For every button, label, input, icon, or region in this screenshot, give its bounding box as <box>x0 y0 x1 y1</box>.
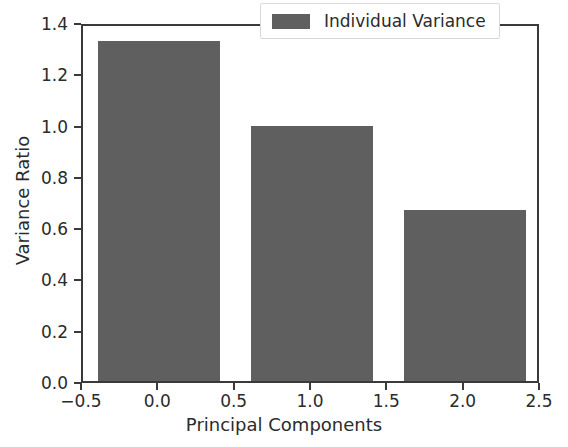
x-axis-tick <box>80 383 82 390</box>
x-axis-tick <box>156 383 158 390</box>
y-axis-tick <box>74 74 81 76</box>
x-axis-tick-label: 1.5 <box>373 393 400 410</box>
x-axis-tick-label: 1.0 <box>296 393 323 410</box>
plot-area <box>81 24 539 383</box>
y-axis-tick-label: 0.6 <box>0 221 68 238</box>
x-axis-tick-label: −0.5 <box>60 393 101 410</box>
y-axis-tick-label: 1.4 <box>0 16 68 33</box>
x-axis-tick-label: 2.5 <box>525 393 552 410</box>
y-axis-tick <box>74 228 81 230</box>
y-axis-tick-label: 0.2 <box>0 324 68 341</box>
legend-label-individual-variance: Individual Variance <box>324 11 486 31</box>
y-axis-tick-label: 1.2 <box>0 67 68 84</box>
y-axis-tick-label: 0.0 <box>0 375 68 392</box>
y-axis-tick <box>74 177 81 179</box>
bar <box>98 41 220 381</box>
x-axis-tick <box>462 383 464 390</box>
bar <box>404 210 526 381</box>
x-axis-tick-label: 2.0 <box>449 393 476 410</box>
x-axis-tick <box>233 383 235 390</box>
y-axis-tick-label: 1.0 <box>0 119 68 136</box>
bar <box>251 126 373 381</box>
variance-ratio-bar-chart: 0.00.20.40.60.81.01.21.4 −0.50.00.51.01.… <box>0 0 568 447</box>
y-axis-tick <box>74 279 81 281</box>
y-axis-label: Variance Ratio <box>12 121 33 281</box>
y-axis-tick <box>74 331 81 333</box>
bars-layer <box>83 26 537 381</box>
y-axis-tick <box>74 23 81 25</box>
x-axis-tick <box>385 383 387 390</box>
x-axis-tick-label: 0.0 <box>144 393 171 410</box>
y-axis-tick <box>74 126 81 128</box>
chart-legend: Individual Variance <box>260 3 500 39</box>
y-axis-tick-label: 0.8 <box>0 170 68 187</box>
x-axis-tick <box>309 383 311 390</box>
x-axis-label: Principal Components <box>0 414 568 435</box>
x-axis-tick-label: 0.5 <box>220 393 247 410</box>
legend-swatch-individual-variance <box>272 14 310 29</box>
y-axis-tick-label: 0.4 <box>0 272 68 289</box>
x-axis-tick <box>538 383 540 390</box>
